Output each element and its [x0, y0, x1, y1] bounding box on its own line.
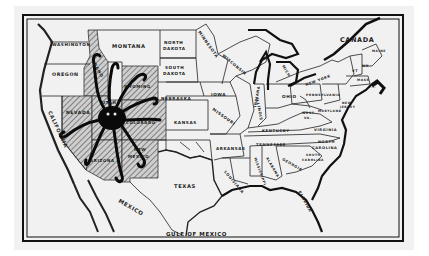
label-colorado: COLORADO: [126, 120, 156, 125]
label-minnesota: MINNESOTA: [197, 30, 220, 59]
label-arizona: ARIZONA: [90, 158, 115, 163]
label-georgia: GEORGIA: [282, 157, 303, 172]
label-kentucky: KENTUCKY: [262, 128, 290, 133]
label-missouri: MISSOURI: [211, 107, 236, 127]
label-virginia: VIRGINIA: [314, 128, 337, 132]
label-wisconsin: WISCONSIN: [221, 53, 247, 76]
label-oregon: OREGON: [52, 72, 79, 77]
label-mexico: MEXICO: [118, 198, 145, 217]
label-north-dakota-1: NORTH: [164, 40, 183, 45]
label-montana: MONTANA: [112, 43, 146, 49]
state-wyoming: [122, 66, 158, 100]
label-new-mexico-2: MEXICO: [128, 154, 149, 159]
label-canada: CANADA: [340, 36, 374, 44]
label-south-carolina-1: SOUTH: [306, 153, 321, 157]
label-ohio: OHIO: [282, 94, 297, 99]
map-paper: CANADA GULF OF MEXICO MEXICO WASHINGTON …: [14, 6, 414, 250]
label-mississippi: MISSISSIPPI: [253, 157, 267, 186]
label-west-virginia-1: WEST: [302, 111, 315, 115]
label-michigan: MICH: [281, 65, 291, 78]
label-florida: FLORIDA: [297, 190, 313, 213]
label-nebraska: NEBRASKA: [161, 96, 191, 101]
us-map: CANADA GULF OF MEXICO MEXICO WASHINGTON …: [14, 6, 414, 250]
label-alabama: ALABAMA: [265, 157, 280, 179]
label-vermont: VT: [352, 69, 358, 73]
label-maryland: MARYLAND: [318, 109, 342, 113]
label-utah: UTAH: [102, 100, 117, 105]
label-maine: MAINE: [372, 49, 386, 53]
label-iowa: IOWA: [211, 92, 226, 97]
label-new-mexico-1: NEW: [134, 147, 146, 152]
label-west-virginia-2: VA.: [304, 116, 312, 120]
label-south-carolina-2: CAROLINA: [302, 158, 324, 162]
label-massachusetts: MASS: [357, 78, 370, 82]
label-wyoming: WYOMING: [124, 84, 151, 89]
label-rhode-island: R.I.: [368, 85, 376, 89]
label-north-carolina-2: CAROLINA: [312, 146, 337, 150]
label-gulf: GULF OF MEXICO: [166, 231, 227, 237]
label-north-carolina-1: NORTH: [318, 140, 335, 144]
label-south-dakota-1: SOUTH: [165, 65, 184, 70]
label-texas: TEXAS: [174, 183, 196, 189]
label-new-jersey-2: JERSEY: [339, 105, 356, 109]
label-south-dakota-2: DAKOTA: [163, 71, 186, 76]
label-arkansas: ARKANSAS: [216, 146, 245, 151]
label-north-dakota-2: DAKOTA: [163, 46, 186, 51]
label-tennessee: TENNESSEE: [256, 142, 286, 147]
label-nevada: NEVADA: [66, 110, 90, 115]
label-pennsylvania: PENNSYLVANIA: [306, 93, 340, 97]
label-washington: WASHINGTON: [52, 42, 91, 47]
label-kansas: KANSAS: [174, 120, 197, 125]
label-new-hampshire: NH: [362, 64, 369, 68]
